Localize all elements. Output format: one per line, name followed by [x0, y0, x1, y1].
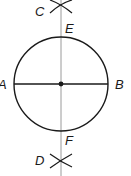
label-d: D — [35, 153, 44, 168]
label-b: B — [115, 77, 124, 92]
label-f: F — [65, 133, 74, 148]
label-c: C — [35, 4, 45, 19]
label-e: E — [65, 21, 74, 36]
center-point — [59, 82, 64, 87]
label-a: A — [0, 77, 7, 92]
geometry-diagram: A B C E F D — [0, 0, 131, 176]
